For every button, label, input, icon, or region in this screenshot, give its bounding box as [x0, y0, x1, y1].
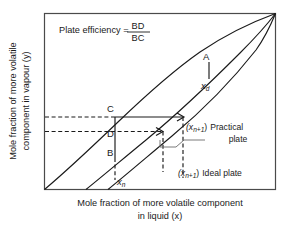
- annotation-ideal-plate: (xn+1)Ideal plate: [178, 168, 242, 179]
- label-xd: xd: [200, 80, 210, 92]
- label-xn-sub: n: [122, 181, 126, 188]
- figure-root: Plate efficiency = BD BC A C D B xd xn (…: [0, 0, 293, 236]
- y-axis-label-line1: Mole fraction of more volatile: [8, 42, 18, 159]
- label-point-b: B: [107, 147, 113, 158]
- annotation-practical-line2: plate: [229, 134, 248, 144]
- label-xn: xn: [116, 176, 126, 188]
- x-axis-label-line1: Mole fraction of more volatile component: [77, 198, 243, 208]
- label-point-a: A: [203, 51, 210, 62]
- x-axis-label-line2: in liquid (x): [138, 211, 182, 221]
- annotation-practical-line1: Practical: [210, 122, 243, 132]
- label-xd-sub: d: [206, 85, 210, 92]
- practical-operating-curve: [86, 14, 276, 190]
- annotation-practical-plate: (xn+1)Practical: [186, 122, 243, 133]
- formula-denominator: BC: [132, 33, 145, 43]
- annotation-ideal-close: ): [196, 168, 199, 178]
- plot-frame: [45, 14, 276, 190]
- equilibrium-curve: [45, 14, 276, 190]
- plate-efficiency-diagram: Plate efficiency = BD BC A C D B xd xn (…: [0, 0, 293, 236]
- annotation-ideal-sub: n+1: [185, 172, 197, 179]
- formula-lead: Plate efficiency =: [59, 25, 129, 35]
- annotation-practical-sub: n+1: [193, 126, 205, 133]
- x-axis-label-line2-text: in liquid (x): [138, 211, 182, 221]
- label-point-d: D: [107, 128, 114, 139]
- formula-numerator: BD: [132, 21, 145, 31]
- y-axis-label-line2: component in vapour (y): [21, 51, 31, 150]
- annotation-ideal-text: Ideal plate: [202, 168, 242, 178]
- annotation-practical-close: ): [204, 122, 207, 132]
- label-point-c: C: [107, 103, 114, 114]
